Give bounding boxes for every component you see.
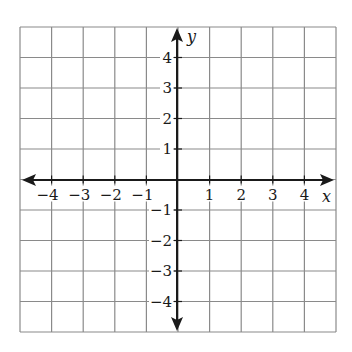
x-tick-label: 3 — [268, 186, 278, 204]
x-axis-label: x — [322, 187, 331, 206]
x-tick-label: −4 — [37, 186, 59, 204]
y-tick-label: 3 — [162, 79, 172, 97]
x-tick-label: 1 — [205, 186, 215, 204]
y-axis-label: y — [186, 27, 197, 46]
axes — [22, 28, 334, 331]
x-tick-label: −3 — [68, 186, 90, 204]
y-tick-label: −2 — [150, 232, 172, 250]
x-tick-label: −2 — [100, 186, 122, 204]
y-tick-label: −3 — [150, 262, 172, 280]
y-tick-label: 1 — [162, 140, 172, 158]
x-tick-labels: −4−3−2−11234 — [37, 186, 310, 204]
y-tick-label: 2 — [162, 110, 172, 128]
y-tick-label: 4 — [162, 49, 172, 67]
coordinate-plane: −4−3−2−11234 4321−1−2−3−4 x y — [0, 0, 352, 352]
y-tick-label: −4 — [150, 293, 172, 311]
y-tick-label: −1 — [150, 201, 172, 219]
x-tick-label: 4 — [300, 186, 310, 204]
x-tick-label: 2 — [236, 186, 246, 204]
